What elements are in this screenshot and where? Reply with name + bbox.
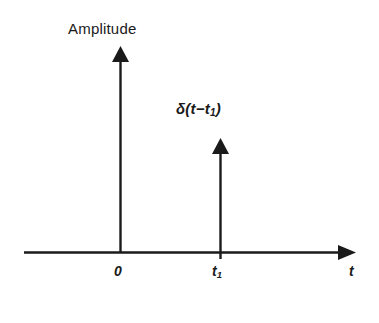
- time-axis-label: t: [349, 264, 354, 278]
- delta-function-suffix: ): [216, 100, 221, 117]
- vertical-axis: [112, 46, 129, 253]
- t1-tick-label: t1: [212, 264, 222, 280]
- origin-tick-label: 0: [114, 264, 122, 278]
- delta-function-prefix: δ(t−t: [176, 100, 210, 117]
- figure-canvas: [0, 0, 379, 323]
- impulse-arrow: [212, 138, 229, 259]
- vertical-axis-arrowhead: [112, 46, 129, 62]
- delta-function-label: δ(t−t1): [176, 101, 221, 118]
- caption-remnant: [8, 312, 126, 321]
- impulse-arrow-head: [212, 138, 229, 154]
- t1-tick-subscript: 1: [217, 269, 222, 280]
- amplitude-axis-label: Amplitude: [68, 21, 137, 36]
- horizontal-axis-arrowhead: [338, 245, 356, 260]
- delta-function-figure: Amplitude δ(t−t1) 0 t1 t: [0, 0, 379, 323]
- horizontal-axis: [24, 245, 356, 260]
